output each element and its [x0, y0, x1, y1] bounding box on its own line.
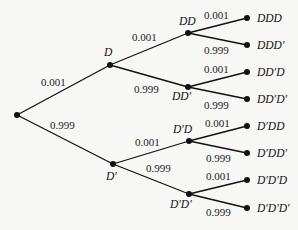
node-label-Dp: D′: [105, 170, 117, 182]
leaf-DpDDp: [244, 150, 250, 156]
leaf-DpDpDp: [244, 205, 250, 211]
edge-root-D: [17, 65, 110, 115]
prob-Dp-DpD: 0.001: [135, 136, 160, 148]
node-label-DpD: D′D: [172, 123, 193, 135]
leaf-DDpDp: [244, 96, 250, 102]
prob-root-Dp: 0.999: [50, 119, 75, 131]
leaf-DDD: [244, 15, 250, 21]
node-label-DDp: DD′: [171, 90, 192, 102]
prob-DD-DDD: 0.001: [204, 9, 229, 21]
prob-DpDp-DpDpDp: 0.999: [206, 206, 231, 218]
node-DpD: [186, 138, 192, 144]
prob-DDp-DDpDp: 0.999: [204, 99, 229, 111]
leaf-label-DpDpDp: D′D′D′: [256, 202, 290, 214]
edge-DDp-DDpDp: [188, 87, 247, 99]
probability-tree: D D′ DD DD′ D′D D′D′ DDD DDD′ DD′D DD′D′…: [0, 0, 298, 230]
leaf-DDpD: [244, 69, 250, 75]
node-root: [14, 112, 20, 118]
prob-DpD-DpDD: 0.001: [205, 117, 230, 129]
leaf-label-DpDDp: D′DD′: [256, 147, 287, 159]
node-Dp: [110, 161, 116, 167]
leaf-label-DpDD: D′DD: [256, 120, 285, 132]
leaf-label-DDpDp: DD′D′: [256, 93, 287, 105]
leaf-DpDpD: [244, 177, 250, 183]
leaf-DDDp: [244, 42, 250, 48]
node-D: [107, 62, 113, 68]
prob-Dp-DpDp: 0.999: [146, 162, 171, 174]
prob-DDp-DDpD: 0.001: [204, 63, 229, 75]
node-DD: [185, 30, 191, 36]
prob-root-D: 0.001: [41, 76, 66, 88]
leaf-DpDD: [244, 123, 250, 129]
leaf-label-DDDp: DDD′: [256, 39, 285, 51]
node-label-DpDp: D′D′: [169, 198, 192, 210]
prob-DD-DDDp: 0.999: [204, 44, 229, 56]
node-DpDp: [186, 191, 192, 197]
prob-DpD-DpDDp: 0.999: [206, 152, 231, 164]
prob-DpDp-DpDpD: 0.001: [206, 170, 231, 182]
edge-DpDp-DpDpD: [189, 180, 247, 194]
node-label-DD: DD: [178, 15, 196, 27]
leaf-label-DDpD: DD′D: [256, 66, 285, 78]
leaf-label-DDD: DDD: [256, 12, 283, 24]
prob-D-DD: 0.001: [132, 31, 157, 43]
prob-D-DDp: 0.999: [134, 83, 159, 95]
node-label-D: D: [103, 46, 113, 58]
leaf-label-DpDpD: D′D′D: [256, 174, 288, 186]
